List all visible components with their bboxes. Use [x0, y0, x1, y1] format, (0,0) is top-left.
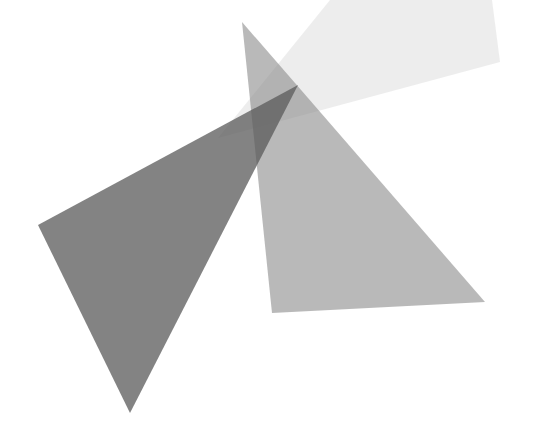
dark-triangle-shape — [38, 85, 298, 413]
abstract-triangles-canvas — [0, 0, 534, 429]
